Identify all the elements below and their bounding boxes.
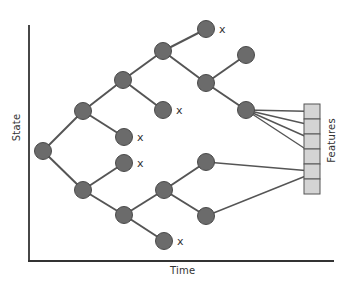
state-node [198, 75, 215, 92]
state-node [198, 21, 215, 38]
state-node [198, 154, 215, 171]
state-node [198, 208, 215, 225]
state-node [238, 47, 255, 64]
feature-cell [304, 149, 320, 164]
feature-cell [304, 104, 320, 119]
pruned-x-icon: x [137, 131, 144, 144]
feature-cell [304, 119, 320, 134]
state-node [75, 182, 92, 199]
features-box [304, 104, 320, 194]
tree-nodes [35, 21, 255, 250]
state-node [116, 129, 133, 146]
pruned-x-icon: x [219, 23, 226, 36]
state-node [238, 102, 255, 119]
axes [28, 25, 334, 261]
trajectory-tree-diagram: xxxxx [0, 0, 350, 290]
pruned-x-icon: x [137, 157, 144, 170]
state-node [155, 43, 172, 60]
tree-edges [43, 29, 246, 241]
state-node [35, 143, 52, 160]
pruned-x-icon: x [177, 235, 184, 248]
feature-cell [304, 134, 320, 149]
y-axis-label: State [11, 114, 22, 141]
feature-links [206, 108, 317, 216]
state-node [116, 207, 133, 224]
state-node [116, 155, 133, 172]
pruned-x-icon: x [176, 104, 183, 117]
x-axis-label: Time [170, 265, 195, 276]
feature-link [206, 162, 317, 172]
feature-cell [304, 179, 320, 194]
state-node [156, 233, 173, 250]
feature-cell [304, 164, 320, 179]
state-node [155, 102, 172, 119]
state-node [75, 103, 92, 120]
feature-link [206, 172, 317, 217]
state-node [156, 182, 173, 199]
features-label: Features [326, 118, 337, 163]
state-node [115, 72, 132, 89]
